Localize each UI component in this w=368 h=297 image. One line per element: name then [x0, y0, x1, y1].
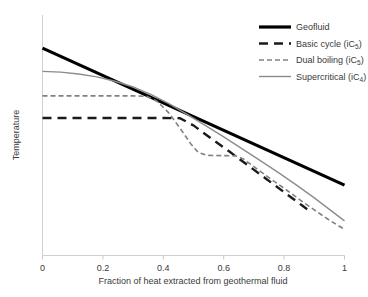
x-tick-label-5: 1: [342, 263, 347, 273]
x-tick-label-3: 0.6: [217, 263, 230, 273]
x-tick-label-2: 0.4: [157, 263, 170, 273]
legend-label-text: Basic cycle (iC: [296, 39, 356, 49]
legend-label-tail: ): [363, 72, 366, 82]
legend-label-basic-cycle: Basic cycle (iC5): [296, 39, 362, 50]
legend-label-tail: ): [361, 55, 364, 65]
legend-label-dual-boiling: Dual boiling (iC5): [296, 55, 364, 66]
x-tick-label-1: 0.2: [97, 263, 110, 273]
legend-label-tail: ): [359, 39, 362, 49]
legend-label-text: Dual boiling (iC: [296, 55, 358, 65]
legend-label-supercritical: Supercritical (iC4): [296, 72, 366, 83]
legend-label-text: Supercritical (iC: [296, 72, 360, 82]
x-tick-label-4: 0.8: [278, 263, 291, 273]
x-tick-label-0: 0: [40, 263, 45, 273]
temperature-vs-heat-fraction-chart: 00.20.40.60.81 Fraction of heat extracte…: [0, 0, 368, 297]
chart-container: 00.20.40.60.81 Fraction of heat extracte…: [0, 0, 368, 297]
legend-label-text: Geofluid: [296, 22, 330, 32]
x-axis-title: Fraction of heat extracted from geotherm…: [98, 276, 287, 286]
legend-label-geofluid: Geofluid: [296, 22, 330, 32]
y-axis-title: Temperature: [11, 110, 21, 161]
